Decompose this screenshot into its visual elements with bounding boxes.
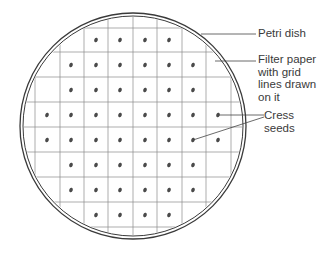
cress-seed [191, 162, 196, 168]
cress-seed [167, 62, 172, 68]
cress-seed [94, 112, 99, 118]
cress-seed [118, 62, 123, 68]
cress-seeds [45, 37, 221, 218]
cress-seed [118, 112, 123, 118]
cress-seed [167, 87, 172, 93]
cress-seed [143, 137, 148, 143]
cress-seed [167, 112, 172, 118]
cress-seed [94, 187, 99, 193]
cress-seed [94, 37, 99, 43]
label-cress-seeds: Cress seeds [264, 109, 295, 134]
cress-seed [191, 187, 196, 193]
cress-seed [143, 112, 148, 118]
cress-seed [143, 62, 148, 68]
cress-seed [216, 137, 221, 143]
cress-seed [167, 37, 172, 43]
label-filter-paper: Filter paper with grid lines drawn on it [258, 53, 316, 103]
cress-seed [191, 87, 196, 93]
cress-seed [143, 162, 148, 168]
cress-seed [94, 137, 99, 143]
cress-seed [143, 37, 148, 43]
cress-seed [191, 112, 196, 118]
cress-seed [69, 187, 74, 193]
cress-seed [118, 137, 123, 143]
cress-seed [94, 162, 99, 168]
petri-dish-diagram: Petri dish Filter paper with grid lines … [0, 0, 334, 254]
label-petri-dish: Petri dish [258, 27, 306, 40]
cress-seed [118, 37, 123, 43]
cress-seed [94, 87, 99, 93]
cress-seed [118, 162, 123, 168]
cress-seed [143, 87, 148, 93]
cress-seed [69, 87, 74, 93]
cress-seed [167, 162, 172, 168]
cress-seed [167, 187, 172, 193]
cress-seed [45, 137, 50, 143]
cress-seed [167, 137, 172, 143]
cress-seed [94, 212, 99, 218]
cress-seed [118, 87, 123, 93]
cress-seed [167, 212, 172, 218]
cress-seed [118, 212, 123, 218]
cress-seed [69, 62, 74, 68]
cress-seed [69, 162, 74, 168]
cress-seed [118, 187, 123, 193]
cress-seed [191, 62, 196, 68]
cress-seed [94, 62, 99, 68]
cress-seed [45, 112, 50, 118]
cress-seed [69, 112, 74, 118]
leader-line-seed-2 [193, 117, 264, 140]
cress-seed [143, 212, 148, 218]
cress-seed [143, 187, 148, 193]
cress-seed [69, 137, 74, 143]
leader-lines [193, 34, 264, 140]
